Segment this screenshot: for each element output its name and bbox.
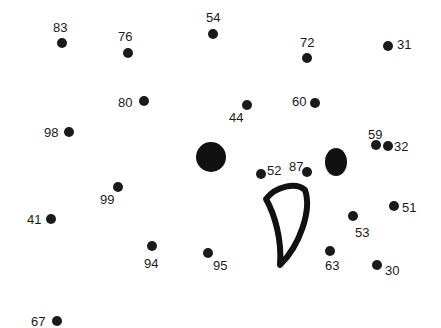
dot-label-41: 41 [27,213,41,226]
dot-label-99: 99 [100,193,114,206]
dot-53 [348,211,358,221]
dot-98 [64,127,74,137]
dot-label-94: 94 [144,257,158,270]
dot-83 [57,38,67,48]
dot-44 [242,100,252,110]
dot-80 [139,96,149,106]
dot-99 [113,182,123,192]
dot-label-51: 51 [402,201,416,214]
dot-41 [46,214,56,224]
dot-54 [208,29,218,39]
dot-label-87: 87 [289,160,303,173]
dot-76 [123,48,133,58]
dot-label-59: 59 [368,128,382,141]
dot-72 [302,53,312,63]
dot-to-dot-canvas: 8376547231804460985932528799415153949563… [0,0,441,328]
dot-label-60: 60 [292,95,306,108]
dot-label-80: 80 [118,96,132,109]
dot-label-63: 63 [325,259,339,272]
dot-32 [383,141,393,151]
right-eye [325,148,347,176]
dot-label-30: 30 [385,264,399,277]
dot-label-76: 76 [118,30,132,43]
dot-95 [203,248,213,258]
dot-label-31: 31 [397,38,411,51]
dot-label-52: 52 [267,164,281,177]
dot-67 [52,316,62,326]
dot-label-83: 83 [53,21,67,34]
dot-label-95: 95 [213,259,227,272]
dot-label-98: 98 [44,126,58,139]
dot-label-54: 54 [206,11,220,24]
dot-60 [310,98,320,108]
dot-label-67: 67 [31,315,45,328]
dot-51 [389,201,399,211]
dot-30 [372,260,382,270]
dot-94 [147,241,157,251]
dot-31 [383,41,393,51]
dot-63 [325,246,335,256]
dot-52 [256,169,266,179]
dot-87 [302,167,312,177]
dot-label-32: 32 [394,140,408,153]
dot-label-44: 44 [229,111,243,124]
dot-label-53: 53 [355,226,369,239]
beak-shape [266,186,307,265]
dot-label-72: 72 [300,36,314,49]
left-eye [196,142,226,172]
